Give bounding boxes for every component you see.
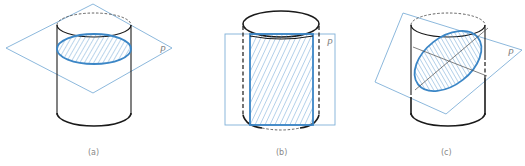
plane-label-b: P bbox=[327, 38, 333, 48]
section-circle-a bbox=[57, 34, 131, 64]
caption-b: (b) bbox=[276, 148, 287, 157]
cylinder-bottom-c bbox=[411, 113, 485, 126]
cylinder-bottom-hidden-b bbox=[262, 128, 300, 130]
caption-a: (a) bbox=[88, 148, 99, 157]
caption-c: (c) bbox=[441, 148, 452, 157]
panel-a: P (a) bbox=[6, 4, 172, 157]
cylinder-bottom-a bbox=[57, 113, 131, 126]
panel-b: P (b) bbox=[225, 11, 335, 157]
section-rectangle-b bbox=[250, 34, 313, 125]
plane-label-c: P bbox=[508, 48, 514, 58]
cylinder-sections-diagram: P (a) P (b) bbox=[0, 0, 525, 166]
panel-c: P (c) bbox=[375, 13, 522, 157]
plane-label-a: P bbox=[160, 45, 166, 55]
